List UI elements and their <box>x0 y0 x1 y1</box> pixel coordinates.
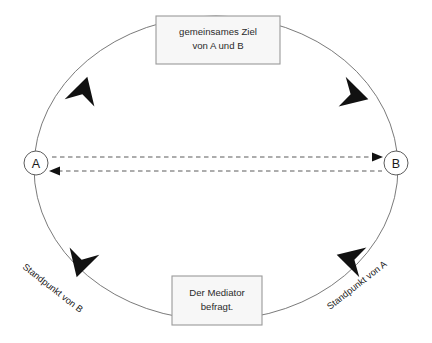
gemeinsames-ziel-line1: gemeinsames Ziel <box>179 26 257 37</box>
standpunkt-von-a-label: Standpunkt von A <box>325 258 389 311</box>
mediator-line2: befragt. <box>201 301 234 312</box>
node-a-group: A <box>24 151 48 175</box>
goal-box-group: gemeinsames Ziel von A und B <box>156 16 280 64</box>
cycle-arrowhead-upper-left <box>65 77 106 118</box>
dashed-arrow-a-to-b <box>52 153 383 162</box>
diagram-svg: gemeinsames Ziel von A und B Der Mediato… <box>0 0 432 343</box>
cycle-arrowhead-lower-left <box>58 236 99 277</box>
node-b-group: B <box>384 151 408 175</box>
mediator-box-group: Der Mediator befragt. <box>172 276 262 325</box>
gemeinsames-ziel-line2: von A und B <box>192 40 243 51</box>
standpunkt-von-a-label-group: Standpunkt von A <box>325 258 389 311</box>
cycle-arrowhead-upper-right <box>327 77 368 118</box>
dashed-arrow-b-to-a <box>49 167 382 176</box>
node-b-label: B <box>392 157 400 171</box>
diagram-canvas: gemeinsames Ziel von A und B Der Mediato… <box>0 0 432 343</box>
node-a-label: A <box>32 157 41 171</box>
mediator-line1: Der Mediator <box>189 287 245 298</box>
